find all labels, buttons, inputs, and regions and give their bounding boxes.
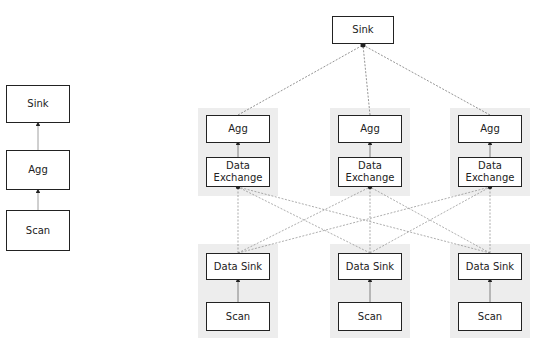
data-sink-node-2: Data Sink: [338, 253, 402, 280]
data-exchange-line2: Exchange: [214, 172, 263, 184]
left-sink-node: Sink: [6, 85, 70, 123]
data-exchange-line1: Data: [478, 160, 502, 172]
data-exchange-node-3: Data Exchange: [458, 157, 522, 187]
scan-node-1: Scan: [206, 302, 270, 331]
data-exchange-node-1: Data Exchange: [206, 157, 270, 187]
data-exchange-line1: Data: [226, 160, 250, 172]
data-exchange-line2: Exchange: [346, 172, 395, 184]
left-scan-node: Scan: [6, 210, 70, 251]
data-sink-node-3: Data Sink: [458, 253, 522, 280]
agg-node-2: Agg: [338, 115, 402, 143]
data-exchange-line1: Data: [358, 160, 382, 172]
top-sink-node: Sink: [332, 16, 394, 44]
scan-node-2: Scan: [338, 302, 402, 331]
data-sink-node-1: Data Sink: [206, 253, 270, 280]
agg-node-1: Agg: [206, 115, 270, 143]
data-exchange-line2: Exchange: [466, 172, 515, 184]
data-exchange-node-2: Data Exchange: [338, 157, 402, 187]
left-agg-node: Agg: [6, 150, 70, 190]
scan-node-3: Scan: [458, 302, 522, 331]
agg-node-3: Agg: [458, 115, 522, 143]
